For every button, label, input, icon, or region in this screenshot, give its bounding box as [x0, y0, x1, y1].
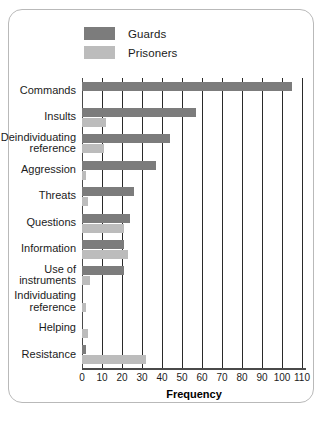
tick-label-30: 30 [136, 372, 147, 383]
bar-guards [82, 134, 170, 143]
category-label: Threats [0, 190, 76, 202]
bar-row: Helping [82, 319, 306, 338]
tick-label-60: 60 [196, 372, 207, 383]
bar-prisoners [82, 118, 106, 127]
bar-row: Insults [82, 108, 306, 127]
bar-row: Threats [82, 187, 306, 206]
tick-label-100: 100 [274, 372, 291, 383]
legend-label-guards: Guards [128, 28, 166, 40]
category-label: Helping [0, 322, 76, 334]
category-label: Use of instruments [0, 264, 76, 287]
bar-guards [82, 240, 124, 249]
bar-prisoners [82, 355, 146, 364]
bar-prisoners [82, 224, 124, 233]
bar-prisoners [82, 197, 88, 206]
legend-item-prisoners: Prisoners [84, 43, 177, 62]
category-label: Individuating reference [0, 290, 76, 313]
legend-swatch-prisoners [84, 46, 115, 59]
tick-label-10: 10 [96, 372, 107, 383]
bar-row: Questions [82, 214, 306, 233]
bar-row: Resistance [82, 345, 306, 364]
plot-area: CommandsInsultsDeindividuating reference… [82, 78, 306, 368]
category-label: Commands [0, 85, 76, 97]
tick-label-0: 0 [79, 372, 85, 383]
bar-guards [82, 108, 196, 117]
chart-legend: Guards Prisoners [84, 24, 177, 62]
category-label: Information [0, 243, 76, 255]
bar-guards [82, 345, 86, 354]
legend-swatch-guards [84, 27, 115, 40]
tick-label-110: 110 [294, 372, 310, 383]
bar-prisoners [82, 144, 104, 153]
legend-label-prisoners: Prisoners [128, 47, 177, 59]
tick-label-90: 90 [256, 372, 267, 383]
bar-guards [82, 214, 130, 223]
tick-label-70: 70 [216, 372, 227, 383]
bar-rows: CommandsInsultsDeindividuating reference… [82, 78, 306, 368]
bar-row: Aggression [82, 161, 306, 180]
bar-guards [82, 82, 292, 91]
bar-row: Use of instruments [82, 266, 306, 285]
bar-prisoners [82, 276, 90, 285]
legend-item-guards: Guards [84, 24, 177, 43]
tick-label-40: 40 [156, 372, 167, 383]
bar-row: Deindividuating reference [82, 134, 306, 153]
x-axis-line [82, 368, 306, 370]
bar-guards [82, 161, 156, 170]
x-axis-title: Frequency [82, 388, 306, 400]
tick-label-20: 20 [116, 372, 127, 383]
bar-prisoners [82, 329, 88, 338]
bar-prisoners [82, 303, 86, 312]
category-label: Insults [0, 111, 76, 123]
category-label: Aggression [0, 164, 76, 176]
bar-guards [82, 266, 124, 275]
category-label: Deindividuating reference [0, 132, 76, 155]
bar-row: Commands [82, 82, 306, 101]
category-label: Questions [0, 217, 76, 229]
x-axis-tick-labels: 0102030405060708090100110 [82, 372, 306, 386]
tick-label-80: 80 [236, 372, 247, 383]
chart-panel: Guards Prisoners CommandsInsultsDeindivi… [8, 9, 314, 403]
bar-prisoners [82, 250, 128, 259]
bar-row: Information [82, 240, 306, 259]
category-label: Resistance [0, 349, 76, 361]
bar-guards [82, 187, 134, 196]
bar-row: Individuating reference [82, 293, 306, 312]
bar-prisoners [82, 171, 86, 180]
tick-label-50: 50 [176, 372, 187, 383]
